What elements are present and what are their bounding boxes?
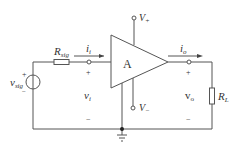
source-minus-sign: − <box>22 88 26 96</box>
supply-positive-terminal-icon <box>132 16 136 20</box>
amplifier-label: A <box>123 57 132 71</box>
output-voltage-label: vo <box>185 89 195 103</box>
input-current-arrowhead <box>99 54 104 58</box>
output-plus-sign: + <box>186 68 191 77</box>
ground-junction-dot <box>120 127 124 131</box>
amplifier-circuit-diagram: Rsig ii + vi − + vsig − A V+ V− io + vo … <box>0 0 241 156</box>
load-resistor-icon <box>210 88 215 104</box>
output-current-label: io <box>180 42 187 56</box>
output-terminal-icon <box>187 60 191 64</box>
source-plus-sign: + <box>22 70 27 79</box>
supply-negative-label: V− <box>139 102 150 115</box>
amplifier-triangle-icon <box>111 35 168 88</box>
supply-positive-label: V+ <box>139 12 150 25</box>
input-voltage-label: vi <box>84 89 91 103</box>
input-plus-sign: + <box>86 68 91 77</box>
source-resistor-icon <box>54 60 69 65</box>
input-current-label: ii <box>86 42 91 56</box>
output-current-arrowhead <box>197 54 203 58</box>
source-resistor-label: Rsig <box>53 45 69 59</box>
supply-negative-terminal-icon <box>131 106 135 110</box>
output-minus-sign: − <box>186 115 191 124</box>
input-minus-sign: − <box>86 115 91 124</box>
load-resistor-label: RL <box>217 90 229 104</box>
input-terminal-icon <box>87 60 91 64</box>
